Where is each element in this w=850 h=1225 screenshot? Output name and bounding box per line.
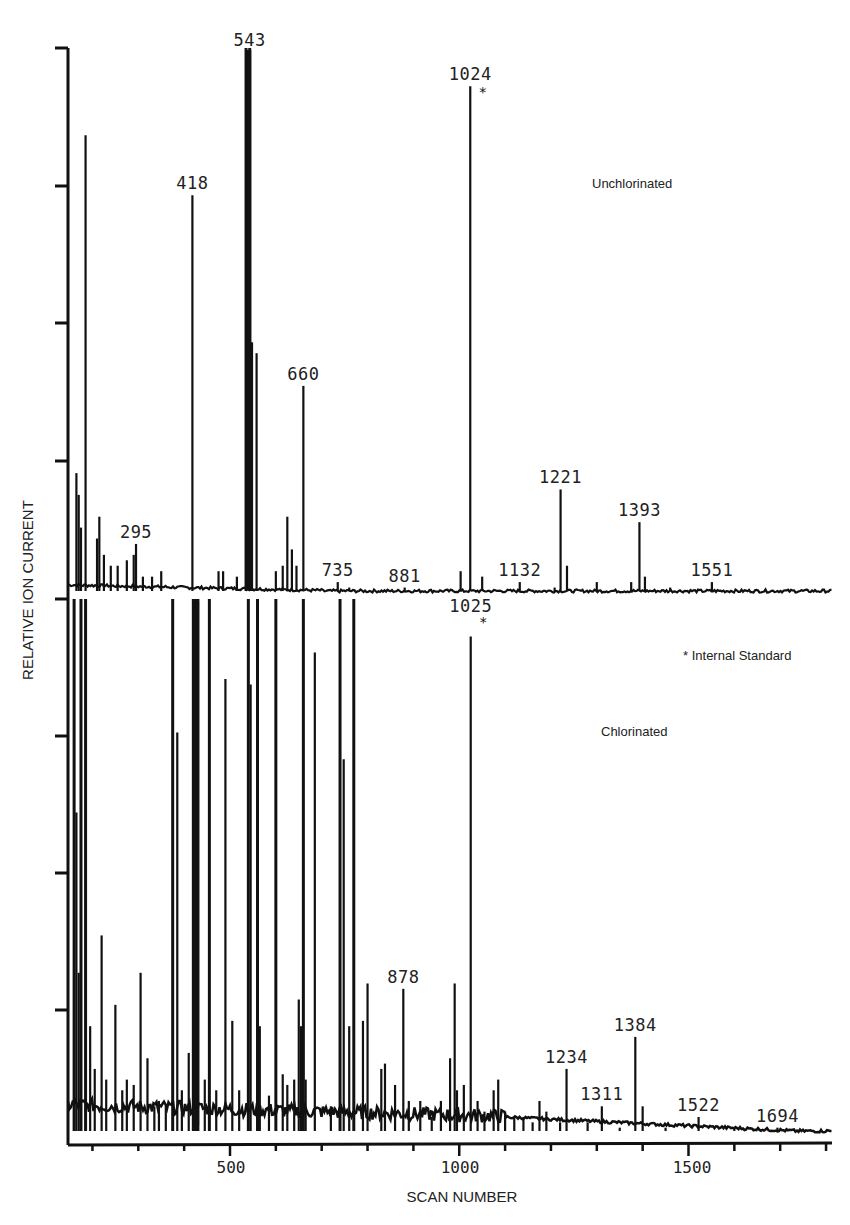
peak-label-1221: 1221 [539, 467, 582, 487]
peak-label-1393: 1393 [618, 500, 661, 520]
peak-label-418: 418 [176, 173, 208, 193]
internal-standard-star-icon: * [480, 614, 487, 630]
x-tick-1000: 1000 [441, 1158, 480, 1177]
lower-panel-label: Chlorinated [601, 724, 668, 739]
legend-internal-standard: * Internal Standard [683, 648, 791, 663]
x-tick-1500: 1500 [673, 1158, 712, 1177]
upper-trace-unchlorinated [68, 48, 832, 593]
peak-label-878: 878 [387, 967, 419, 987]
peak-label-295: 295 [120, 522, 152, 542]
upper-panel-label: Unchlorinated [592, 176, 672, 191]
peak-label-735: 735 [322, 560, 354, 580]
peak-label-1025: 1025 [449, 596, 492, 616]
peak-label-1694: 1694 [756, 1106, 799, 1126]
x-tick-500: 500 [217, 1158, 246, 1177]
x-axis-line [68, 1143, 832, 1145]
legend-text: Internal Standard [692, 648, 792, 663]
peak-label-1311: 1311 [580, 1084, 623, 1104]
peak-label-543: 543 [234, 30, 266, 50]
x-axis-title: SCAN NUMBER [407, 1188, 518, 1205]
peak-label-1234: 1234 [545, 1047, 588, 1067]
peak-label-1384: 1384 [614, 1015, 657, 1035]
peak-label-881: 881 [389, 566, 421, 586]
peak-label-1024: 1024 [449, 64, 492, 84]
internal-standard-star-icon: * [479, 84, 486, 100]
peak-label-1551: 1551 [690, 560, 733, 580]
baseline-trace [68, 584, 832, 593]
star-icon: * [683, 648, 688, 663]
lower-trace-chlorinated [68, 599, 832, 1132]
y-axis-title: RELATIVE ION CURRENT [19, 500, 36, 680]
peak-label-1132: 1132 [498, 560, 541, 580]
peak-label-1522: 1522 [677, 1095, 720, 1115]
chromatogram-chart [0, 0, 850, 1225]
peak-label-660: 660 [287, 364, 319, 384]
